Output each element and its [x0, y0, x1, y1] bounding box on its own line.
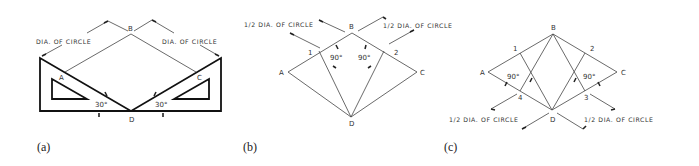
- dim-label-right: DIA. OF CIRCLE: [162, 38, 217, 45]
- point-1: 1: [308, 49, 312, 57]
- point-a: A: [279, 69, 284, 77]
- dim-label-right: 1/2 DIA. OF CIRCLE: [584, 116, 654, 123]
- point-c: C: [197, 74, 202, 82]
- point-d: D: [550, 116, 555, 124]
- right-triangle: [131, 58, 221, 111]
- point-c: C: [420, 69, 425, 77]
- panel-b: 1/2 DIA. OF CIRCLE 1/2 DIA. OF CIRCLE B …: [243, 17, 453, 154]
- point-d: D: [129, 116, 134, 124]
- point-d: D: [349, 120, 354, 128]
- point-b: B: [128, 25, 133, 33]
- caption-b: (b): [243, 140, 257, 154]
- point-b: B: [349, 23, 354, 31]
- point-2: 2: [394, 49, 398, 57]
- point-b: B: [551, 24, 556, 32]
- angle-right: 90°: [358, 54, 370, 62]
- dim-label-left: 1/2 DIA. OF CIRCLE: [244, 21, 314, 28]
- point-a: A: [59, 74, 64, 82]
- dim-label-left: DIA. OF CIRCLE: [36, 38, 91, 45]
- point-4: 4: [518, 94, 523, 102]
- caption-a: (a): [37, 140, 50, 154]
- point-1: 1: [513, 45, 517, 53]
- angle-left: 90°: [330, 54, 342, 62]
- point-a: A: [480, 69, 485, 77]
- point-3: 3: [584, 94, 588, 102]
- point-2: 2: [590, 45, 594, 53]
- angle-right: 90°: [583, 73, 595, 81]
- angle-left: 30°: [95, 101, 107, 109]
- dim-label-right: 1/2 DIA. OF CIRCLE: [383, 22, 453, 29]
- left-triangle: [40, 58, 131, 111]
- panel-a: DIA. OF CIRCLE DIA. OF CIRCLE B A C D 30…: [36, 20, 221, 154]
- angle-right: 30°: [155, 101, 167, 109]
- caption-c: (c): [444, 140, 457, 154]
- point-c: C: [621, 69, 626, 77]
- dim-label-left: 1/2 DIA. OF CIRCLE: [449, 116, 519, 123]
- angle-left: 90°: [507, 73, 519, 81]
- panel-c: 1/2 DIA. OF CIRCLE 1/2 DIA. OF CIRCLE B …: [444, 24, 654, 154]
